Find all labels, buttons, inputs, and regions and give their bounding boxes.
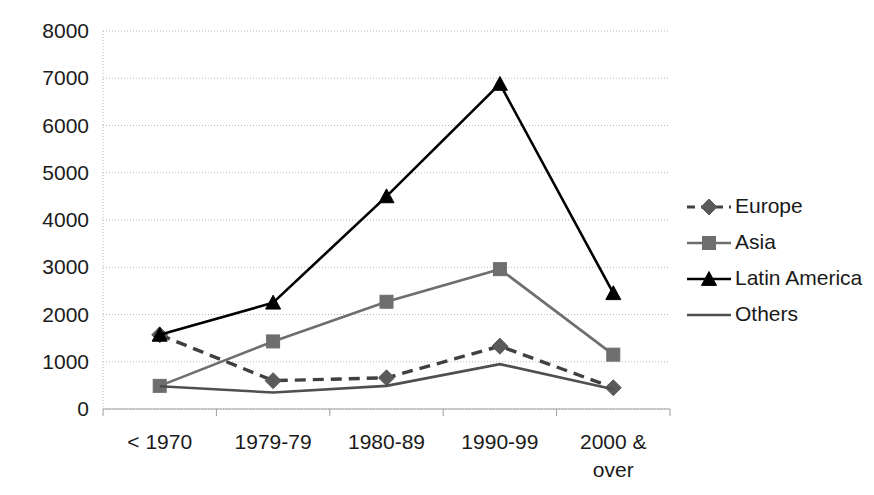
legend-label: Others (735, 302, 798, 325)
x-axis-tick-labels: < 19701979-791980-891990-992000 &over (127, 430, 646, 481)
axis-layer (103, 31, 670, 416)
data-point-marker (607, 348, 620, 361)
y-tick-label: 4000 (42, 208, 89, 231)
chart-legend: EuropeAsiaLatin AmericaOthers (687, 194, 863, 325)
x-tick-label: 1990-99 (461, 430, 538, 453)
data-point-marker (379, 370, 395, 386)
x-tick-label: 1980-89 (348, 430, 425, 453)
y-tick-label: 5000 (42, 161, 89, 184)
legend-label: Latin America (735, 266, 863, 289)
series-line (160, 269, 614, 386)
legend-item-latin-america[interactable]: Latin America (687, 266, 863, 289)
line-chart: 010002000300040005000600070008000 < 1970… (0, 0, 874, 495)
data-point-marker (380, 295, 393, 308)
grid-layer (103, 31, 670, 409)
y-tick-label: 3000 (42, 255, 89, 278)
legend-swatch-marker (703, 237, 716, 250)
series-layer (152, 76, 622, 395)
y-axis-tick-labels: 010002000300040005000600070008000 (42, 19, 89, 420)
data-point-marker (493, 263, 506, 276)
legend-swatch-marker (701, 199, 717, 215)
chart-canvas: 010002000300040005000600070008000 < 1970… (0, 0, 874, 495)
x-tick-label: 1979-79 (235, 430, 312, 453)
y-tick-label: 8000 (42, 19, 89, 42)
legend-item-others[interactable]: Others (687, 302, 798, 325)
y-tick-label: 6000 (42, 114, 89, 137)
x-tick-label: < 1970 (127, 430, 192, 453)
data-point-marker (265, 373, 281, 389)
data-point-marker (267, 335, 280, 348)
legend-label: Europe (735, 194, 803, 217)
y-tick-label: 1000 (42, 350, 89, 373)
y-tick-label: 7000 (42, 66, 89, 89)
legend-item-asia[interactable]: Asia (687, 230, 776, 253)
y-tick-label: 2000 (42, 303, 89, 326)
legend-label: Asia (735, 230, 776, 253)
data-point-marker (492, 338, 508, 354)
data-point-marker (606, 286, 621, 300)
x-tick-label: 2000 &over (580, 430, 647, 481)
legend-item-europe[interactable]: Europe (687, 194, 803, 217)
y-tick-label: 0 (77, 397, 89, 420)
